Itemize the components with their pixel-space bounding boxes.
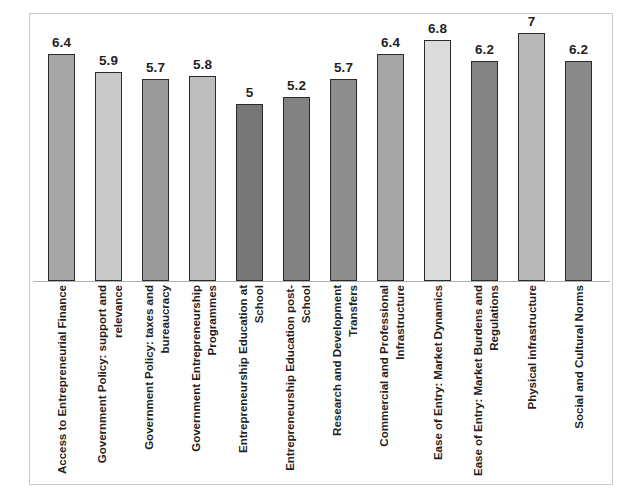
category-axis-line (33, 281, 610, 282)
bar-value-label: 6.2 (461, 42, 508, 57)
bar-group: 5.2 (273, 0, 320, 281)
category-label-6: Entrepreneurship Education post-School (273, 285, 320, 485)
category-label-9: Ease of Entry: Market Dynamics (414, 285, 461, 485)
bar-group: 6.4 (38, 0, 85, 281)
category-label-text: Government Policy: support and relevance (93, 285, 124, 481)
bar-group: 6.4 (367, 0, 414, 281)
category-label-10: Ease of Entry: Market Burdens and Regula… (461, 285, 508, 485)
bar-value-label: 5.7 (320, 60, 367, 75)
bar-group: 5.8 (179, 0, 226, 281)
bar[interactable] (565, 61, 592, 281)
bar[interactable] (189, 76, 216, 281)
bar-value-label: 6.4 (367, 35, 414, 50)
bar-group: 5 (226, 0, 273, 281)
category-label-text: Access to Entrepreneurial Finance (54, 285, 70, 481)
bar[interactable] (377, 54, 404, 281)
bar-value-label: 6.8 (414, 21, 461, 36)
category-label-text: Physical infrastructure (524, 285, 540, 481)
bar[interactable] (330, 79, 357, 281)
category-label-3: Government Policy: taxes and bureaucracy (132, 285, 179, 485)
category-label-text: Ease of Entry: Market Dynamics (430, 285, 446, 481)
bar-value-label: 6.2 (555, 42, 602, 57)
category-label-7: Research and Development Transfers (320, 285, 367, 485)
bar[interactable] (48, 54, 75, 281)
category-label-2: Government Policy: support and relevance (85, 285, 132, 485)
category-label-text: Social and Cultural Norms (571, 285, 587, 481)
category-label-8: Commercial and Professional Infrastructu… (367, 285, 414, 485)
bar-value-label: 5.7 (132, 60, 179, 75)
bar[interactable] (283, 97, 310, 281)
bar-group: 6.2 (555, 0, 602, 281)
category-label-text: Entrepreneurship Education post-School (281, 285, 312, 481)
bar[interactable] (471, 61, 498, 281)
category-labels-layer: Access to Entrepreneurial FinanceGovernm… (0, 285, 642, 490)
category-label-text: Government Entrepreneurship Programmes (187, 285, 218, 481)
bar-value-label: 5.2 (273, 78, 320, 93)
category-label-text: Commercial and Professional Infrastructu… (375, 285, 406, 481)
category-label-text: Government Policy: taxes and bureaucracy (140, 285, 171, 481)
category-label-5: Entrepreneurship Education at School (226, 285, 273, 485)
bars-layer: 6.45.95.75.855.25.76.46.86.276.2 (0, 0, 642, 281)
category-label-11: Physical infrastructure (508, 285, 555, 485)
bar[interactable] (95, 72, 122, 281)
bar-value-label: 5.8 (179, 57, 226, 72)
bar-group: 5.7 (132, 0, 179, 281)
bar-group: 7 (508, 0, 555, 281)
category-label-12: Social and Cultural Norms (555, 285, 602, 485)
bar-group: 6.2 (461, 0, 508, 281)
bar-chart: 6.45.95.75.855.25.76.46.86.276.2 Access … (0, 0, 642, 501)
bar[interactable] (236, 104, 263, 281)
bar[interactable] (424, 40, 451, 281)
category-label-text: Research and Development Transfers (328, 285, 359, 481)
bar-value-label: 5.9 (85, 53, 132, 68)
bar-group: 5.7 (320, 0, 367, 281)
bar-value-label: 5 (226, 85, 273, 100)
bar-group: 5.9 (85, 0, 132, 281)
category-label-text: Ease of Entry: Market Burdens and Regula… (469, 285, 500, 481)
bar[interactable] (518, 33, 545, 281)
bar-value-label: 7 (508, 14, 555, 29)
bar-group: 6.8 (414, 0, 461, 281)
category-label-1: Access to Entrepreneurial Finance (38, 285, 85, 485)
category-label-4: Government Entrepreneurship Programmes (179, 285, 226, 485)
bar-value-label: 6.4 (38, 35, 85, 50)
category-label-text: Entrepreneurship Education at School (234, 285, 265, 481)
bar[interactable] (142, 79, 169, 281)
